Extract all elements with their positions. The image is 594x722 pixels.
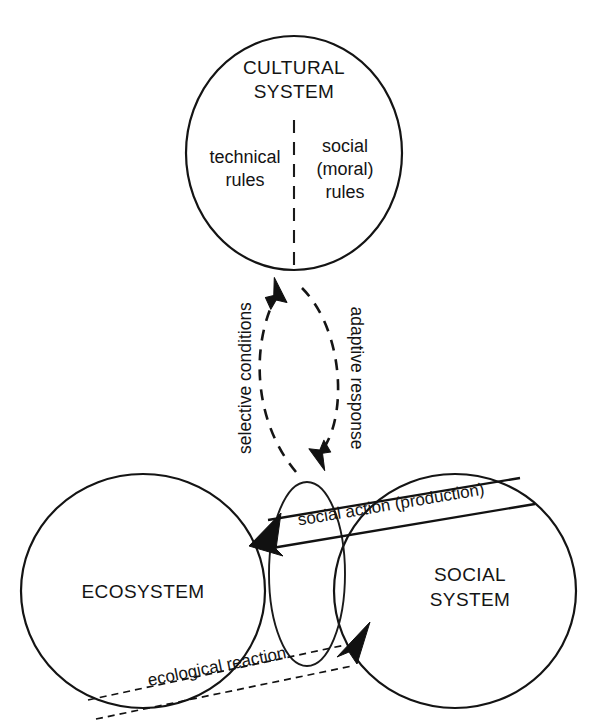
selective-conditions-arrowhead: [264, 277, 290, 312]
ecological-reaction-arrow: ecological reaction: [88, 622, 370, 719]
social-action-label: social action (production): [296, 480, 486, 530]
adaptive-response-arc: [302, 288, 338, 452]
social-action-arrowhead: [249, 513, 283, 556]
ecological-reaction-arrowhead: [337, 622, 370, 664]
adaptive-response-arrowhead: [307, 439, 332, 471]
cultural-system-title-line2: SYSTEM: [254, 81, 335, 102]
diagram-canvas: CULTURAL SYSTEM technical rules social (…: [0, 0, 594, 722]
social-moral-rules-line3: rules: [325, 182, 364, 202]
selective-conditions-label: selective conditions: [235, 302, 255, 454]
bottom-systems-group: ECOSYSTEM SOCIAL SYSTEM: [21, 474, 576, 708]
adaptive-response-label: adaptive response: [347, 306, 367, 449]
technical-rules-line2: rules: [225, 170, 264, 190]
social-moral-rules-line2: (moral): [317, 159, 374, 179]
social-system-label-line1: SOCIAL: [434, 564, 506, 585]
technical-rules-line1: technical: [209, 147, 280, 167]
ecosystem-label: ECOSYSTEM: [82, 581, 205, 602]
social-system-label-line2: SYSTEM: [430, 589, 511, 610]
cultural-system-group: CULTURAL SYSTEM technical rules social (…: [186, 36, 402, 271]
selective-conditions-arc: [260, 291, 296, 472]
systems-interaction-diagram: CULTURAL SYSTEM technical rules social (…: [0, 0, 594, 722]
cultural-system-title-line1: CULTURAL: [243, 57, 345, 78]
social-moral-rules-line1: social: [322, 136, 368, 156]
feedback-loop-group: selective conditions adaptive response: [235, 277, 367, 472]
